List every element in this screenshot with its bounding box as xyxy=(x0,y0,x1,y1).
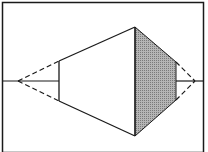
frustum-outline xyxy=(59,27,135,136)
frustum-diagram xyxy=(0,0,208,152)
shaded-face xyxy=(135,27,176,136)
